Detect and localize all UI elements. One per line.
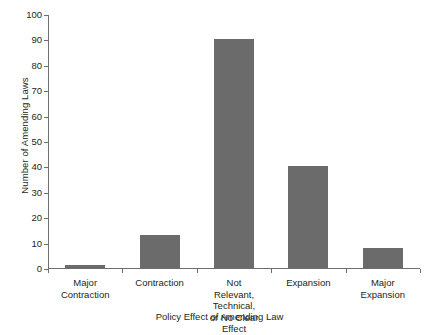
- y-tick-label: 10: [31, 238, 42, 249]
- x-axis-title: Policy Effect of Amending Law: [0, 311, 439, 322]
- y-tick-label: 60: [31, 111, 42, 122]
- y-tick-label: 80: [31, 60, 42, 71]
- y-tick-mark: [44, 142, 48, 143]
- y-tick-mark: [44, 167, 48, 168]
- y-tick-mark: [44, 117, 48, 118]
- y-tick-label: 40: [31, 161, 42, 172]
- x-category-label: Major Contraction: [48, 277, 122, 300]
- x-axis-line: [48, 268, 420, 269]
- y-tick-mark: [44, 15, 48, 16]
- bar: [363, 248, 403, 268]
- y-tick-label: 100: [26, 9, 42, 20]
- x-tick-mark: [197, 269, 198, 273]
- x-category-label: Major Expansion: [346, 277, 420, 300]
- y-tick-mark: [44, 40, 48, 41]
- x-tick-mark: [420, 269, 421, 273]
- x-tick-mark: [48, 269, 49, 273]
- y-tick-mark: [44, 66, 48, 67]
- x-tick-mark: [346, 269, 347, 273]
- y-tick-mark: [44, 218, 48, 219]
- y-axis-title: Number of Amending Laws: [19, 36, 30, 236]
- bar: [214, 39, 254, 268]
- plot-area: 0102030405060708090100: [48, 15, 420, 269]
- x-category-label: Expansion: [271, 277, 345, 289]
- y-tick-mark: [44, 244, 48, 245]
- y-tick-label: 0: [37, 263, 42, 274]
- x-tick-mark: [122, 269, 123, 273]
- bar: [140, 235, 180, 268]
- x-tick-mark: [271, 269, 272, 273]
- y-tick-mark: [44, 91, 48, 92]
- x-category-label: Not Relevant, Technical, or No Clear Eff…: [197, 277, 271, 335]
- y-tick-label: 20: [31, 212, 42, 223]
- y-axis-line: [48, 15, 49, 269]
- bar: [288, 166, 328, 268]
- y-tick-label: 30: [31, 187, 42, 198]
- y-tick-mark: [44, 193, 48, 194]
- y-tick-label: 70: [31, 85, 42, 96]
- y-tick-label: 50: [31, 136, 42, 147]
- x-category-label: Contraction: [122, 277, 196, 289]
- y-tick-label: 90: [31, 34, 42, 45]
- bar: [65, 265, 105, 268]
